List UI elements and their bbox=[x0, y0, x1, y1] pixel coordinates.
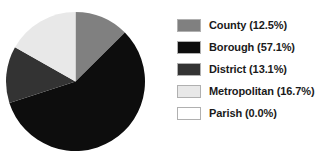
legend-label-borough: Borough (57.1%) bbox=[209, 41, 295, 53]
chart-legend: County (12.5%) Borough (57.1%) District … bbox=[177, 14, 318, 146]
pie-chart-figure bbox=[4, 10, 148, 154]
legend-swatch-county bbox=[177, 19, 201, 32]
legend-swatch-parish bbox=[177, 107, 201, 120]
legend-item-metropolitan[interactable]: Metropolitan (16.7%) bbox=[177, 80, 318, 102]
legend-label-county: County (12.5%) bbox=[209, 19, 287, 31]
legend-item-borough[interactable]: Borough (57.1%) bbox=[177, 36, 318, 58]
legend-label-metropolitan: Metropolitan (16.7%) bbox=[209, 85, 315, 97]
legend-label-district: District (13.1%) bbox=[209, 63, 287, 75]
pie-chart-svg bbox=[4, 10, 148, 154]
legend-item-parish[interactable]: Parish (0.0%) bbox=[177, 102, 318, 124]
legend-swatch-borough bbox=[177, 41, 201, 54]
legend-item-county[interactable]: County (12.5%) bbox=[177, 14, 318, 36]
legend-item-district[interactable]: District (13.1%) bbox=[177, 58, 318, 80]
pie-chart-screenshot: County (12.5%) Borough (57.1%) District … bbox=[0, 0, 318, 159]
pie-slice-group bbox=[6, 12, 145, 151]
legend-swatch-district bbox=[177, 63, 201, 76]
legend-swatch-metropolitan bbox=[177, 85, 201, 98]
legend-label-parish: Parish (0.0%) bbox=[209, 107, 277, 119]
